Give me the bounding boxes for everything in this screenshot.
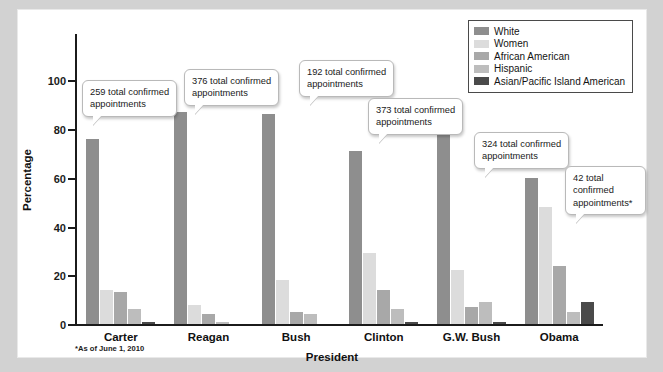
callout-carter: 259 total confirmed appointments — [82, 80, 177, 117]
bar-fill — [493, 322, 506, 324]
y-tick-100 — [68, 80, 75, 82]
bar-fill — [290, 312, 303, 324]
legend-label: African American — [494, 51, 570, 62]
bar-fill — [451, 270, 464, 324]
y-tick-40 — [68, 227, 75, 229]
y-tick-20 — [68, 275, 75, 277]
y-tick-label-80: 80 — [54, 124, 66, 136]
bar-african-american-4 — [465, 56, 478, 324]
chart-figure: Percentage 020406080100 CarterReaganBush… — [18, 10, 646, 357]
legend-label: Women — [494, 38, 528, 49]
bar-fill — [188, 305, 201, 324]
bar-fill — [437, 129, 450, 324]
x-tick-label-0: Carter — [104, 331, 138, 343]
bar-white-5 — [525, 56, 538, 324]
x-axis-title: President — [18, 351, 646, 363]
bar-fill — [142, 322, 155, 324]
x-tick-label-1: Reagan — [188, 331, 230, 343]
y-tick-0 — [68, 324, 75, 326]
bar-asian-pacific-island-american-4 — [493, 56, 506, 324]
bar-hispanic-3 — [391, 56, 404, 324]
bar-fill — [405, 322, 418, 324]
bar-women-5 — [539, 56, 552, 324]
legend-item-african-american[interactable]: African American — [474, 50, 625, 63]
x-tick-label-4: G.W. Bush — [443, 331, 501, 343]
x-axis-line — [75, 324, 603, 326]
legend-label: White — [494, 26, 520, 37]
bar-fill — [539, 207, 552, 324]
bar-fill — [479, 302, 492, 324]
bar-fill — [128, 309, 141, 324]
bar-asian-pacific-island-american-3 — [405, 56, 418, 324]
legend-swatch-icon — [474, 52, 489, 60]
bar-african-american-2 — [290, 56, 303, 324]
y-tick-label-20: 20 — [54, 270, 66, 282]
x-tick-label-3: Clinton — [364, 331, 404, 343]
callout-bush: 192 total confirmed appointments — [299, 60, 394, 97]
bar-fill — [216, 322, 229, 324]
legend-swatch-icon — [474, 77, 489, 85]
y-tick-label-100: 100 — [48, 75, 66, 87]
y-tick-60 — [68, 178, 75, 180]
bar-fill — [174, 112, 187, 324]
y-tick-label-40: 40 — [54, 222, 66, 234]
bar-women-4 — [451, 56, 464, 324]
callout-reagan: 376 total confirmed appointments — [184, 69, 279, 106]
bar-fill — [100, 290, 113, 324]
bar-african-american-5 — [553, 56, 566, 324]
legend-item-women[interactable]: Women — [474, 38, 625, 51]
screenshot-page: Percentage 020406080100 CarterReaganBush… — [0, 0, 663, 372]
x-tick-label-5: Obama — [540, 331, 579, 343]
bar-fill — [567, 312, 580, 324]
y-axis-title: Percentage — [21, 149, 33, 211]
x-tick-label-2: Bush — [282, 331, 311, 343]
legend-item-asian-pacific-island-american[interactable]: Asian/Pacific Island American — [474, 75, 625, 88]
bar-fill — [276, 280, 289, 324]
bar-fill — [349, 151, 362, 324]
bar-fill — [114, 292, 127, 324]
legend-swatch-icon — [474, 40, 489, 48]
y-tick-80 — [68, 129, 75, 131]
callout-clinton: 373 total confirmed appointments — [368, 98, 463, 135]
callout-g-w-bush: 324 total confirmed appointments — [474, 132, 569, 169]
bar-fill — [553, 266, 566, 324]
bar-white-4 — [437, 56, 450, 324]
bar-fill — [581, 302, 594, 324]
legend-item-white[interactable]: White — [474, 25, 625, 38]
bar-fill — [391, 309, 404, 324]
bar-group-g-w-bush: G.W. Bush — [428, 56, 516, 324]
y-tick-label-0: 0 — [60, 319, 66, 331]
bar-fill — [377, 290, 390, 324]
bar-fill — [465, 307, 478, 324]
chart-legend: WhiteWomenAfrican AmericanHispanicAsian/… — [468, 20, 633, 93]
bar-fill — [304, 314, 317, 324]
bar-hispanic-4 — [479, 56, 492, 324]
bar-fill — [86, 139, 99, 324]
bar-fill — [525, 178, 538, 324]
y-tick-label-60: 60 — [54, 173, 66, 185]
bar-fill — [202, 314, 215, 324]
callout-obama: 42 total confirmed appointments* — [565, 166, 646, 215]
legend-swatch-icon — [474, 27, 489, 35]
legend-swatch-icon — [474, 65, 489, 73]
legend-label: Asian/Pacific Island American — [494, 76, 625, 87]
legend-item-hispanic[interactable]: Hispanic — [474, 63, 625, 76]
legend-label: Hispanic — [494, 63, 532, 74]
bar-fill — [363, 253, 376, 324]
bar-fill — [262, 114, 275, 324]
